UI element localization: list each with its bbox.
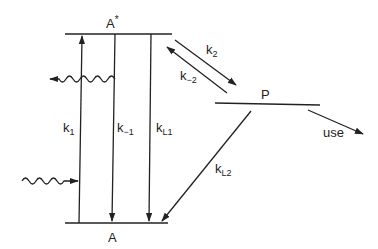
use-label: use <box>323 125 344 140</box>
product-state-label: P <box>261 87 270 102</box>
k-minus1-label: k−1 <box>117 120 134 137</box>
k-minus2-arrow <box>167 47 227 93</box>
k-minus1-arrow <box>112 34 115 221</box>
absorption-wavy-arrow <box>22 178 78 184</box>
k1-label: k1 <box>63 120 75 137</box>
k-minus2-label: k−2 <box>180 68 197 85</box>
product-level-line <box>215 103 320 105</box>
kinetic-diagram: A* A P k1 k−1 kL1 k2 k−2 kL2 use <box>0 0 378 249</box>
ground-state-label: A <box>108 230 117 245</box>
kL2-label: kL2 <box>215 161 232 178</box>
kL1-arrow <box>149 34 151 221</box>
emission-wavy-arrow <box>50 76 115 82</box>
kL1-label: kL1 <box>156 120 173 137</box>
k2-label: k2 <box>206 42 218 59</box>
kL2-arrow <box>162 111 251 221</box>
excited-state-label: A* <box>106 14 119 31</box>
k1-arrow <box>79 36 82 223</box>
